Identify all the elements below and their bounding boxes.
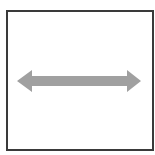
left-right-arrow-icon bbox=[0, 0, 155, 155]
arrow-shape bbox=[17, 70, 141, 92]
